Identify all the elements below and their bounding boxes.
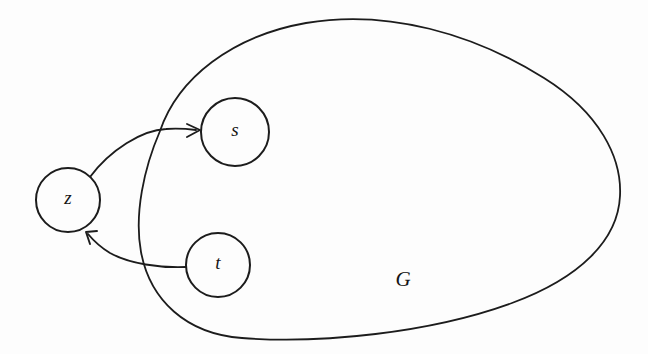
node-t-label: t: [215, 252, 221, 273]
edge-z-to-s: [90, 129, 196, 177]
edge-t-to-z: [88, 234, 186, 267]
diagram-canvas: s t z G: [0, 0, 648, 354]
region-label-g: G: [395, 267, 410, 291]
node-z-label: z: [63, 187, 72, 208]
diagram-svg: s t z G: [0, 0, 648, 354]
node-s-label: s: [231, 119, 238, 140]
